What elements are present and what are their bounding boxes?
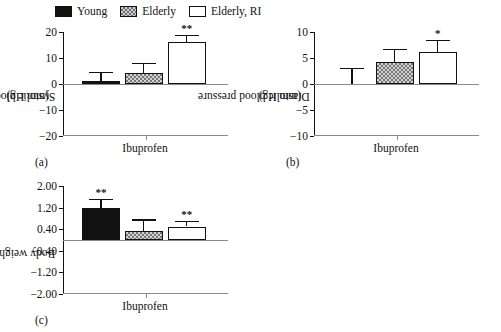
error-bar-stem xyxy=(100,72,101,81)
error-bar-stem xyxy=(351,68,352,84)
bar-young xyxy=(82,81,120,84)
bar-elderly xyxy=(376,62,414,84)
plot-area-b: 1050−5−10* xyxy=(314,32,479,136)
y-tick-label: 0.40 xyxy=(37,224,57,235)
y-axis-label-c: Body weight (kg) xyxy=(0,180,30,326)
x-axis-title-a: Ibuprofen xyxy=(122,142,167,154)
y-tick-0 xyxy=(59,136,63,137)
bar-young xyxy=(82,208,120,240)
y-tick-2 xyxy=(59,229,63,230)
y-tick-label: −1.20 xyxy=(30,267,57,278)
y-tick-1 xyxy=(310,58,314,59)
y-tick-1 xyxy=(310,136,314,137)
y-tick-2 xyxy=(59,294,63,295)
y-tick-label: −2.00 xyxy=(30,289,57,300)
y-tick-label: 1.20 xyxy=(37,202,57,213)
error-bar-stem xyxy=(143,63,144,73)
y-tick-2 xyxy=(59,208,63,209)
y-tick-label: 2.00 xyxy=(37,181,57,192)
y-tick-label: −10 xyxy=(39,105,57,116)
error-bar-cap xyxy=(132,219,156,220)
significance-marker: ** xyxy=(181,210,192,219)
zero-line xyxy=(63,240,228,241)
x-tick xyxy=(397,136,398,140)
y-tick-2 xyxy=(59,186,63,187)
figure-panel-group: Young Elderly Elderly, RI Systolic blood… xyxy=(0,0,501,332)
legend-item-young: Young xyxy=(55,6,107,17)
error-bar-stem xyxy=(437,40,438,52)
bar-ri xyxy=(168,42,206,84)
significance-marker: ** xyxy=(95,188,106,197)
y-tick-label: 10 xyxy=(46,53,58,64)
y-tick-2 xyxy=(59,251,63,252)
y-tick-label: 0 xyxy=(302,79,308,90)
panel-caption-b: (b) xyxy=(286,156,299,168)
zero-line xyxy=(314,84,479,85)
error-bar-stem xyxy=(143,219,144,231)
legend-label-elderly: Elderly xyxy=(142,6,176,17)
error-bar-cap xyxy=(89,199,113,200)
x-tick xyxy=(146,294,147,298)
error-bar-stem xyxy=(394,49,395,61)
y-tick-label: 0 xyxy=(51,79,57,90)
y-tick-label: −0.40 xyxy=(30,245,57,256)
error-bar-cap xyxy=(340,68,364,69)
chart-panel-c: Body weight (kg) 2.001.200.40−0.40−1.20−… xyxy=(0,180,240,326)
bar-ri xyxy=(168,227,206,241)
y-tick-label: 5 xyxy=(302,53,308,64)
x-axis-title-c: Ibuprofen xyxy=(122,300,167,312)
legend-item-elderly-ri: Elderly, RI xyxy=(189,6,261,17)
panel-caption-c: (c) xyxy=(35,314,48,326)
significance-marker: ** xyxy=(181,24,192,33)
y-tick-label: 20 xyxy=(46,27,58,38)
legend-label-young: Young xyxy=(77,6,107,17)
y-tick-0 xyxy=(59,32,63,33)
legend-swatch-elderly-ri-icon xyxy=(189,6,206,17)
y-tick-0 xyxy=(59,58,63,59)
x-axis-title-b: Ibuprofen xyxy=(373,142,418,154)
y-tick-0 xyxy=(59,110,63,111)
error-bar-cap xyxy=(89,72,113,73)
y-tick-label: 10 xyxy=(297,27,309,38)
error-bar-cap xyxy=(132,63,156,64)
y-tick-1 xyxy=(310,32,314,33)
legend-swatch-young-icon xyxy=(55,6,72,17)
y-tick-2 xyxy=(59,272,63,273)
y-axis-label-a: Systolic blood pressure(mm Hg) xyxy=(0,26,30,166)
y-tick-label: −5 xyxy=(296,105,308,116)
error-bar-cap xyxy=(426,40,450,41)
plot-area-a: 20100−10−20** xyxy=(63,32,228,136)
y-tick-1 xyxy=(310,110,314,111)
error-bar-cap xyxy=(383,49,407,50)
bar-elderly xyxy=(125,73,163,84)
bar-elderly xyxy=(125,231,163,240)
bar-ri xyxy=(419,52,457,84)
error-bar-cap xyxy=(175,221,199,222)
error-bar-stem xyxy=(100,199,101,208)
zero-line xyxy=(63,84,228,85)
legend-swatch-elderly-icon xyxy=(120,6,137,17)
error-bar-cap xyxy=(175,35,199,36)
plot-area-c: 2.001.200.40−0.40−1.20−2.00**** xyxy=(63,186,228,294)
panel-caption-a: (a) xyxy=(35,156,48,168)
y-axis-label-b: Diastolic blood pressure(mm Hg) xyxy=(252,26,282,166)
legend-label-elderly-ri: Elderly, RI xyxy=(211,6,261,17)
y-tick-label: −20 xyxy=(39,131,57,142)
legend: Young Elderly Elderly, RI xyxy=(55,6,261,17)
legend-item-elderly: Elderly xyxy=(120,6,176,17)
significance-marker: * xyxy=(435,29,441,38)
x-tick xyxy=(146,136,147,140)
chart-panel-b: Diastolic blood pressure(mm Hg) 1050−5−1… xyxy=(252,26,497,166)
y-tick-label: −10 xyxy=(290,131,308,142)
